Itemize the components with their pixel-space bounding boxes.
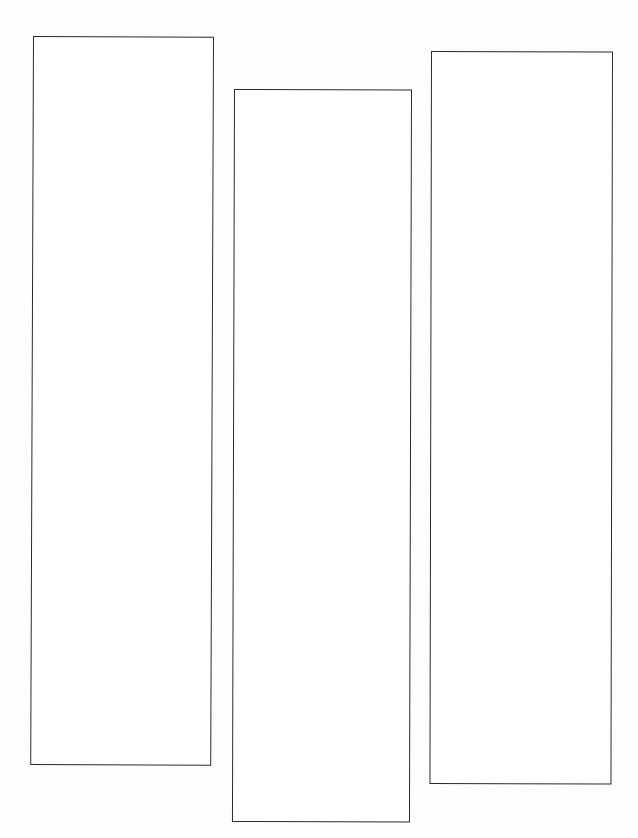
blank-rectangle-3 xyxy=(429,51,613,784)
blank-rectangle-2-body xyxy=(233,90,411,821)
blank-rectangle-3-body xyxy=(430,52,612,783)
blank-rectangle-1-body xyxy=(31,37,213,765)
page-canvas xyxy=(0,0,638,838)
blank-rectangle-1 xyxy=(30,36,214,766)
blank-rectangle-2 xyxy=(232,89,412,822)
